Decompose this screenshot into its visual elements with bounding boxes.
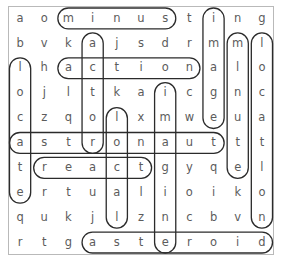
- letter-cell[interactable]: v: [226, 205, 250, 230]
- letter-cell[interactable]: m: [201, 31, 225, 56]
- letter-cell[interactable]: t: [105, 56, 129, 81]
- letter-cell[interactable]: e: [153, 230, 177, 255]
- letter-cell[interactable]: s: [32, 130, 56, 155]
- letter-cell[interactable]: a: [250, 106, 274, 131]
- letter-cell[interactable]: j: [105, 31, 129, 56]
- letter-cell[interactable]: a: [153, 130, 177, 155]
- letter-cell[interactable]: k: [226, 180, 250, 205]
- letter-cell[interactable]: l: [226, 56, 250, 81]
- letter-cell[interactable]: b: [201, 205, 225, 230]
- letter-cell[interactable]: q: [56, 106, 80, 131]
- letter-cell[interactable]: g: [201, 81, 225, 106]
- letter-cell[interactable]: j: [81, 205, 105, 230]
- letter-cell[interactable]: r: [177, 31, 201, 56]
- letter-cell[interactable]: t: [8, 155, 32, 180]
- letter-cell[interactable]: n: [177, 56, 201, 81]
- letter-cell[interactable]: g: [250, 6, 274, 31]
- letter-cell[interactable]: n: [250, 205, 274, 230]
- letter-cell[interactable]: r: [8, 230, 32, 255]
- letter-cell[interactable]: m: [226, 31, 250, 56]
- letter-cell[interactable]: o: [177, 180, 201, 205]
- letter-cell[interactable]: c: [250, 81, 274, 106]
- letter-cell[interactable]: u: [177, 130, 201, 155]
- letter-cell[interactable]: n: [129, 130, 153, 155]
- letter-cell[interactable]: l: [129, 180, 153, 205]
- letter-cell[interactable]: t: [129, 230, 153, 255]
- letter-cell[interactable]: q: [8, 205, 32, 230]
- letter-cell[interactable]: o: [105, 130, 129, 155]
- letter-cell[interactable]: t: [32, 230, 56, 255]
- letter-cell[interactable]: e: [56, 155, 80, 180]
- letter-cell[interactable]: i: [153, 180, 177, 205]
- letter-cell[interactable]: t: [250, 130, 274, 155]
- letter-cell[interactable]: a: [129, 81, 153, 106]
- letter-cell[interactable]: k: [56, 31, 80, 56]
- letter-cell[interactable]: n: [153, 205, 177, 230]
- letter-cell[interactable]: k: [105, 81, 129, 106]
- letter-cell[interactable]: d: [250, 230, 274, 255]
- letter-cell[interactable]: c: [177, 205, 201, 230]
- letter-cell[interactable]: l: [56, 81, 80, 106]
- letter-cell[interactable]: x: [129, 106, 153, 131]
- letter-cell[interactable]: o: [250, 180, 274, 205]
- letter-cell[interactable]: t: [81, 81, 105, 106]
- letter-cell[interactable]: s: [105, 230, 129, 255]
- letter-cell[interactable]: o: [81, 106, 105, 131]
- letter-cell[interactable]: a: [201, 56, 225, 81]
- letter-cell[interactable]: w: [177, 106, 201, 131]
- letter-cell[interactable]: t: [56, 180, 80, 205]
- letter-cell[interactable]: o: [32, 6, 56, 31]
- letter-cell[interactable]: i: [153, 81, 177, 106]
- letter-cell[interactable]: l: [250, 155, 274, 180]
- letter-cell[interactable]: g: [153, 155, 177, 180]
- letter-cell[interactable]: l: [105, 205, 129, 230]
- letter-cell[interactable]: m: [153, 106, 177, 131]
- letter-cell[interactable]: t: [201, 130, 225, 155]
- letter-cell[interactable]: a: [8, 130, 32, 155]
- letter-cell[interactable]: n: [105, 6, 129, 31]
- letter-cell[interactable]: c: [177, 81, 201, 106]
- letter-cell[interactable]: q: [201, 155, 225, 180]
- letter-cell[interactable]: j: [32, 81, 56, 106]
- letter-cell[interactable]: s: [129, 31, 153, 56]
- letter-cell[interactable]: l: [250, 31, 274, 56]
- letter-cell[interactable]: r: [177, 230, 201, 255]
- letter-cell[interactable]: h: [32, 56, 56, 81]
- letter-cell[interactable]: o: [153, 56, 177, 81]
- letter-cell[interactable]: t: [226, 130, 250, 155]
- letter-cell[interactable]: l: [105, 106, 129, 131]
- letter-cell[interactable]: t: [177, 6, 201, 31]
- letter-cell[interactable]: y: [177, 155, 201, 180]
- letter-cell[interactable]: u: [226, 106, 250, 131]
- letter-cell[interactable]: r: [81, 130, 105, 155]
- letter-cell[interactable]: a: [81, 230, 105, 255]
- letter-cell[interactable]: a: [81, 155, 105, 180]
- letter-cell[interactable]: t: [129, 155, 153, 180]
- letter-cell[interactable]: c: [81, 56, 105, 81]
- letter-cell[interactable]: e: [8, 180, 32, 205]
- letter-cell[interactable]: i: [81, 6, 105, 31]
- letter-cell[interactable]: u: [32, 205, 56, 230]
- letter-cell[interactable]: n: [226, 81, 250, 106]
- letter-cell[interactable]: a: [105, 180, 129, 205]
- letter-cell[interactable]: r: [32, 155, 56, 180]
- letter-cell[interactable]: e: [201, 106, 225, 131]
- letter-cell[interactable]: e: [226, 155, 250, 180]
- letter-cell[interactable]: c: [105, 155, 129, 180]
- letter-cell[interactable]: i: [201, 180, 225, 205]
- letter-cell[interactable]: k: [56, 205, 80, 230]
- letter-cell[interactable]: v: [32, 31, 56, 56]
- letter-cell[interactable]: u: [81, 180, 105, 205]
- letter-cell[interactable]: c: [8, 106, 32, 131]
- letter-cell[interactable]: o: [8, 81, 32, 106]
- letter-cell[interactable]: z: [32, 106, 56, 131]
- letter-cell[interactable]: b: [8, 31, 32, 56]
- letter-cell[interactable]: o: [250, 56, 274, 81]
- letter-cell[interactable]: a: [8, 6, 32, 31]
- letter-cell[interactable]: t: [56, 130, 80, 155]
- letter-cell[interactable]: d: [153, 31, 177, 56]
- letter-cell[interactable]: a: [81, 31, 105, 56]
- letter-cell[interactable]: o: [201, 230, 225, 255]
- letter-cell[interactable]: i: [129, 56, 153, 81]
- letter-cell[interactable]: a: [56, 56, 80, 81]
